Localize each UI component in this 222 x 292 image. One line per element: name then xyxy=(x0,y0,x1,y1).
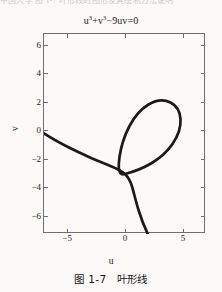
ytick-left-neg6 xyxy=(44,216,48,217)
ytick-label-neg4: −4 xyxy=(31,183,41,192)
ytick-left-4 xyxy=(44,73,48,74)
xtick-bottom-5 xyxy=(183,229,184,233)
ytick-right-neg4 xyxy=(201,187,205,188)
plot-axes-box: 6 4 2 0 −2 −4 −6 −5 0 5 xyxy=(43,33,205,233)
title-remainder: −9uv=0 xyxy=(106,15,138,26)
curve-loop xyxy=(119,100,181,174)
scan-bleed-text: 中国大学 图 1-7 叶形线的图形及其绘制方法说明 xyxy=(0,0,222,9)
ytick-right-neg6 xyxy=(201,216,205,217)
x-axis-label: u xyxy=(0,256,222,266)
ytick-left-2 xyxy=(44,102,48,103)
xtick-top-5 xyxy=(183,34,184,38)
ytick-right-0 xyxy=(201,130,205,131)
ytick-label-neg2: −2 xyxy=(31,154,41,163)
ytick-label-6: 6 xyxy=(37,40,42,49)
ytick-left-neg4 xyxy=(44,187,48,188)
plot-title: u3+v3−9uv=0 xyxy=(0,14,222,26)
ytick-left-6 xyxy=(44,45,48,46)
xtick-bottom-0 xyxy=(125,229,126,233)
ytick-right-6 xyxy=(201,45,205,46)
curve-asymptotic-branch xyxy=(44,133,167,234)
xtick-bottom-neg5 xyxy=(67,229,68,233)
ytick-left-neg2 xyxy=(44,159,48,160)
xtick-label-neg5: −5 xyxy=(62,234,72,243)
ytick-right-neg2 xyxy=(201,159,205,160)
ytick-right-2 xyxy=(201,102,205,103)
y-axis-label: v xyxy=(10,126,20,131)
ytick-left-0 xyxy=(44,130,48,131)
ytick-label-4: 4 xyxy=(37,69,42,78)
figure-caption: 图 1-7 叶形线 xyxy=(0,271,222,286)
ytick-label-neg6: −6 xyxy=(31,211,41,220)
ytick-label-0: 0 xyxy=(37,126,42,135)
scan-bleed-line: 中国大学 图 1-7 叶形线的图形及其绘制方法说明 xyxy=(0,0,222,5)
folium-curve xyxy=(44,34,206,234)
xtick-top-0 xyxy=(125,34,126,38)
xtick-label-5: 5 xyxy=(181,234,186,243)
figure-container: u3+v3−9uv=0 6 4 2 0 −2 −4 xyxy=(0,9,222,292)
ytick-right-4 xyxy=(201,73,205,74)
xtick-label-0: 0 xyxy=(123,234,128,243)
xtick-top-neg5 xyxy=(67,34,68,38)
ytick-label-2: 2 xyxy=(37,97,42,106)
